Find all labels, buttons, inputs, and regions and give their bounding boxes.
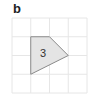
grid-figure: 3 — [0, 0, 94, 100]
shape-label: 3 — [40, 47, 46, 59]
